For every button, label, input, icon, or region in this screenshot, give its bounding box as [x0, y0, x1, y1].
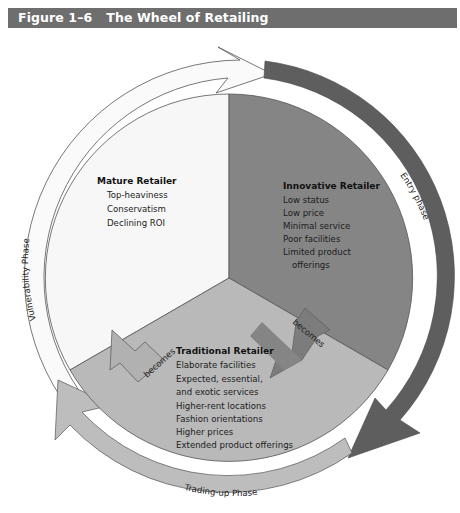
traditional-item: Expected, essential,: [176, 374, 263, 384]
traditional-item: Elaborate facilities: [176, 360, 256, 370]
innovative-item: Low price: [283, 208, 324, 218]
mature-item: Declining ROI: [107, 218, 165, 228]
mature-heading: Mature Retailer: [97, 176, 177, 186]
wheel-of-retailing-diagram: becomes becomes Entry phase Vulnerabilit…: [0, 0, 460, 513]
traditional-item: Higher-rent locations: [176, 401, 266, 411]
innovative-item: Low status: [283, 195, 330, 205]
traditional-item: Extended product offerings: [176, 440, 294, 450]
mature-item: Top-heaviness: [106, 190, 168, 200]
traditional-item: and exotic services: [176, 387, 259, 397]
mature-item: Conservatism: [107, 204, 166, 214]
traditional-heading: Traditional Retailer: [176, 346, 274, 356]
traditional-item: Higher prices: [176, 427, 234, 437]
innovative-item: offerings: [292, 260, 330, 270]
innovative-item: Minimal service: [283, 221, 350, 231]
traditional-item: Fashion orientations: [176, 414, 263, 424]
innovative-item: Limited product: [283, 247, 351, 257]
innovative-heading: Innovative Retailer: [283, 181, 380, 191]
innovative-item: Poor facilities: [283, 234, 341, 244]
